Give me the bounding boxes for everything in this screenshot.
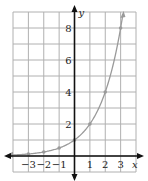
x-tick-label: 2 <box>102 159 108 170</box>
y-axis-arrow-icon <box>72 5 78 12</box>
data-point <box>57 146 61 150</box>
x-axis-arrow-icon <box>137 153 144 159</box>
x-axis-arrow-left-icon <box>4 153 11 159</box>
y-axis-label: y <box>78 7 85 18</box>
data-point <box>88 122 92 126</box>
data-point <box>103 90 107 94</box>
x-tick-label: 3 <box>117 159 123 170</box>
y-axis-arrow-down-icon <box>72 174 78 181</box>
x-axis-label: x <box>132 159 138 170</box>
x-tick-label: −1 <box>52 159 67 170</box>
y-tick-label: 4 <box>65 87 71 98</box>
x-tick-label: 1 <box>87 159 93 170</box>
x-tick-label: −2 <box>36 159 51 170</box>
data-point <box>119 26 123 30</box>
tick-labels: −3−2−11232468 <box>21 23 124 171</box>
y-tick-label: 8 <box>65 23 71 34</box>
x-tick-label: −3 <box>21 159 36 170</box>
exponential-graph: −3−2−11232468 x y <box>0 0 148 181</box>
data-point <box>42 150 46 154</box>
y-tick-label: 2 <box>65 119 71 130</box>
y-tick-label: 6 <box>65 55 71 66</box>
